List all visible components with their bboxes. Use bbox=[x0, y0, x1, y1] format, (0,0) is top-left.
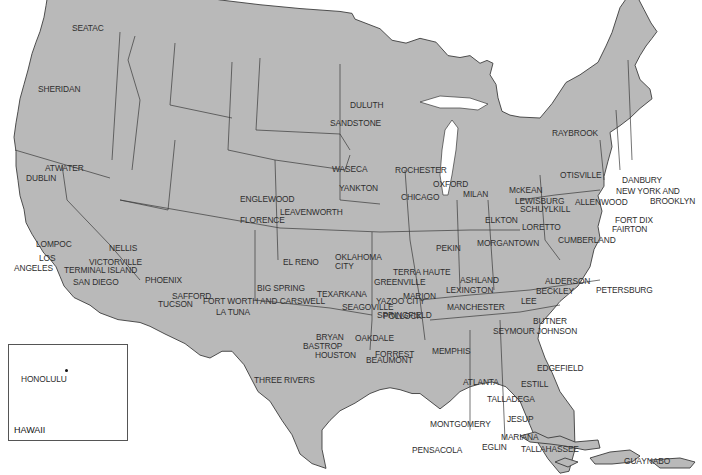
city-marker-honolulu bbox=[65, 369, 68, 372]
city-label-edgefield: EDGEFIELD bbox=[537, 364, 584, 373]
city-label-sheridan: SHERIDAN bbox=[38, 85, 80, 94]
city-label-danbury: DANBURY bbox=[622, 176, 662, 185]
city-label-raybrook: RAYBROOK bbox=[552, 129, 598, 138]
city-label-guaynabo: GUAYNABO bbox=[624, 457, 670, 466]
city-label-fort-worth-and-carswell: FORT WORTH AND CARSWELL bbox=[203, 297, 325, 306]
city-label-atlanta: ATLANTA bbox=[463, 378, 499, 387]
city-label-allenwood: ALLENWOOD bbox=[575, 198, 628, 207]
city-label-texarkana: TEXARKANA bbox=[317, 290, 367, 299]
city-label-mckean: McKEAN bbox=[509, 186, 542, 195]
city-label-los: LOS bbox=[39, 254, 55, 263]
hawaii-inset: HONOLULU HAWAII bbox=[8, 344, 128, 441]
city-label-manchester: MANCHESTER bbox=[447, 303, 505, 312]
city-label-englewood: ENGLEWOOD bbox=[240, 195, 294, 204]
city-label-nellis: NELLIS bbox=[109, 244, 137, 253]
city-label-oxford: OXFORD bbox=[433, 180, 468, 189]
city-label-talladega: TALLADEGA bbox=[487, 395, 535, 404]
city-label-montgomery: MONTGOMERY bbox=[430, 420, 491, 429]
city-label-rochester: ROCHESTER bbox=[395, 166, 447, 175]
city-label-atwater: ATWATER bbox=[45, 164, 84, 173]
city-label-lompoc: LOMPOC bbox=[36, 240, 72, 249]
city-label-angeles: ANGELES bbox=[14, 264, 53, 273]
city-label-sandstone: SANDSTONE bbox=[330, 119, 381, 128]
city-label-forrest: FORREST bbox=[375, 350, 414, 359]
city-label-beckley: BECKLEY bbox=[536, 287, 574, 296]
city-label-tallahassee: TALLAHASSEE bbox=[521, 445, 579, 454]
city-label-leavenworth: LEAVENWORTH bbox=[280, 208, 343, 217]
city-label-jesup: JESUP bbox=[507, 415, 534, 424]
city-label-new-york-and: NEW YORK AND bbox=[616, 187, 680, 196]
city-label-petersburg: PETERSBURG bbox=[596, 286, 653, 295]
city-label-otisville: OTISVILLE bbox=[560, 171, 601, 180]
city-label-florence: FLORENCE bbox=[240, 216, 285, 225]
city-label-estill: ESTILL bbox=[521, 380, 548, 389]
city-label-morgantown: MORGANTOWN bbox=[477, 239, 539, 248]
city-label-tucson: TUCSON bbox=[158, 300, 193, 309]
city-label-cumberland: CUMBERLAND bbox=[558, 236, 616, 245]
city-label-honolulu: HONOLULU bbox=[21, 375, 67, 384]
city-label-el-reno: EL RENO bbox=[283, 258, 319, 267]
city-label-marion: MARION bbox=[403, 292, 436, 301]
city-label-dublin: DUBLIN bbox=[26, 174, 56, 183]
city-label-chicago: CHICAGO bbox=[401, 193, 439, 202]
city-label-alderson: ALDERSON bbox=[545, 277, 590, 286]
city-label-springfield: SPRINGFIELD bbox=[377, 311, 432, 320]
city-label-greenville: GREENVILLE bbox=[374, 278, 426, 287]
city-label-mariana: MARIANA bbox=[501, 433, 538, 442]
city-label-san-diego: SAN DIEGO bbox=[73, 278, 119, 287]
city-label-la-tuna: LA TUNA bbox=[216, 308, 250, 317]
city-label-oakdale: OAKDALE bbox=[355, 334, 394, 343]
city-label-schuylkill: SCHUYLKILL bbox=[520, 205, 570, 214]
city-label-pensacola: PENSACOLA bbox=[412, 446, 462, 455]
city-label-big-spring: BIG SPRING bbox=[257, 284, 305, 293]
city-label-loretto: LORETTO bbox=[522, 223, 561, 232]
city-label-brooklyn: BROOKLYN bbox=[650, 197, 695, 206]
hawaii-inset-title: HAWAII bbox=[14, 425, 45, 435]
city-label-houston: HOUSTON bbox=[315, 351, 356, 360]
city-label-memphis: MEMPHIS bbox=[432, 347, 470, 356]
city-label-milan: MILAN bbox=[463, 190, 488, 199]
city-label-seymour-johnson: SEYMOUR JOHNSON bbox=[493, 327, 577, 336]
city-label-duluth: DULUTH bbox=[350, 101, 383, 110]
city-label-phoenix: PHOENIX bbox=[145, 276, 182, 285]
city-label-yankton: YANKTON bbox=[339, 184, 378, 193]
city-label-fairton: FAIRTON bbox=[612, 225, 647, 234]
city-label-terra-haute: TERRA HAUTE bbox=[393, 268, 451, 277]
city-label-ashland: ASHLAND bbox=[460, 276, 499, 285]
city-label-terminal-island: TERMINAL ISLAND bbox=[64, 266, 137, 275]
city-label-butner: BUTNER bbox=[533, 317, 567, 326]
city-label-seatac: SEATAC bbox=[72, 24, 104, 33]
city-label-three-rivers: THREE RIVERS bbox=[254, 376, 315, 385]
city-label-elkton: ELKTON bbox=[485, 216, 518, 225]
city-label-city: CITY bbox=[335, 262, 354, 271]
city-label-waseca: WASECA bbox=[332, 165, 367, 174]
city-label-pekin: PEKIN bbox=[436, 244, 461, 253]
city-label-lexington: LEXINGTON bbox=[446, 286, 493, 295]
city-label-lee: LEE bbox=[521, 297, 537, 306]
city-label-eglin: EGLIN bbox=[482, 443, 507, 452]
